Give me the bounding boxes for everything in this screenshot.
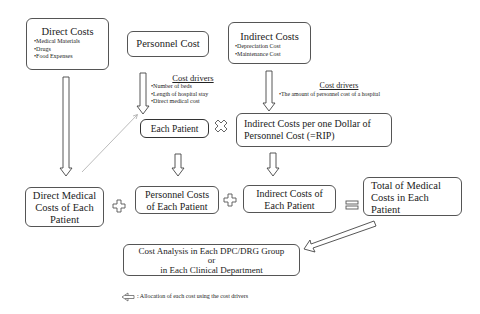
- direct-costs-item: •Drugs: [34, 46, 108, 54]
- cost-analysis-line: or: [124, 256, 299, 265]
- direct-costs-title: Direct Costs: [27, 26, 108, 38]
- direct-medical-line: Patient: [26, 214, 103, 226]
- cost-driver-item: •Direct medical cost: [151, 98, 241, 106]
- personnel-costs-patient-line: Personnel Costs: [136, 189, 218, 201]
- arrow-direct-down: [60, 77, 72, 176]
- rip-box: Indirect Costs per one Dollar of Personn…: [236, 113, 392, 147]
- personnel-cost-box: Personnel Cost: [127, 31, 209, 57]
- plus-operator-icon: [223, 193, 237, 211]
- arrow-rip-down: [267, 153, 279, 176]
- legend-label: : Allocation of each cost using the cost…: [137, 293, 248, 299]
- thin-arrow-direct-to-patient: [82, 115, 137, 172]
- each-patient-label: Each Patient: [141, 123, 208, 135]
- direct-costs-item: •Medical Materials: [34, 38, 108, 46]
- cost-drivers-personnel: Cost drivers •Number of beds •Length of …: [151, 73, 241, 106]
- arrow-total-to-analysis: [304, 221, 376, 252]
- indirect-costs-patient-line: Each Patient: [244, 200, 335, 212]
- cost-driver-item: •Number of beds: [151, 83, 241, 91]
- direct-costs-box: Direct Costs •Medical Materials •Drugs •…: [26, 18, 109, 70]
- direct-costs-item: •Food Expenses: [34, 53, 108, 61]
- cost-drivers-title: Cost drivers: [279, 81, 399, 91]
- indirect-costs-patient-box: Indirect Costs of Each Patient: [243, 185, 336, 213]
- arrow-each-patient-down: [172, 154, 184, 176]
- equals-operator-icon: [345, 196, 359, 214]
- arrow-indirect-down: [263, 71, 275, 111]
- cost-driver-item: •The amount of personnel cost of a hospi…: [279, 91, 399, 99]
- indirect-costs-box: Indirect Costs •Depreciation Cost •Maint…: [228, 22, 311, 64]
- indirect-costs-item: •Maintenance Cost: [235, 51, 310, 59]
- total-medical-costs-box: Total of Medical Costs in Each Patient: [363, 177, 462, 216]
- total-line: Patient: [371, 204, 461, 216]
- total-line: Total of Medical: [371, 180, 461, 192]
- plus-operator-icon: [112, 199, 126, 217]
- personnel-cost-title: Personnel Cost: [128, 38, 208, 50]
- personnel-costs-patient-line: of Each Patient: [136, 201, 218, 213]
- cost-driver-item: •Length of hospital stay: [151, 91, 241, 99]
- rip-line: Personnel Cost (=RIP): [244, 130, 391, 142]
- rip-line: Indirect Costs per one Dollar of: [244, 118, 391, 130]
- arrow-personnel-down: [137, 73, 149, 114]
- direct-medical-line: Direct Medical: [26, 190, 103, 202]
- cost-drivers-title: Cost drivers: [163, 73, 223, 83]
- indirect-costs-patient-line: Indirect Costs of: [244, 188, 335, 200]
- direct-medical-costs-box: Direct Medical Costs of Each Patient: [25, 187, 104, 227]
- cost-analysis-line: in Each Clinical Department: [124, 265, 299, 275]
- total-line: Costs in Each: [371, 192, 461, 204]
- legend-arrow-icon: [122, 293, 134, 301]
- direct-medical-line: Costs of Each: [26, 202, 103, 214]
- indirect-costs-title: Indirect Costs: [229, 31, 310, 43]
- cost-analysis-box: Cost Analysis in Each DPC/DRG Group or i…: [123, 244, 300, 276]
- multiply-operator-icon: [214, 119, 228, 133]
- personnel-costs-patient-box: Personnel Costs of Each Patient: [135, 186, 219, 214]
- each-patient-box: Each Patient: [140, 119, 209, 138]
- cost-drivers-indirect: Cost drivers •The amount of personnel co…: [279, 81, 399, 99]
- indirect-costs-item: •Depreciation Cost: [235, 43, 310, 51]
